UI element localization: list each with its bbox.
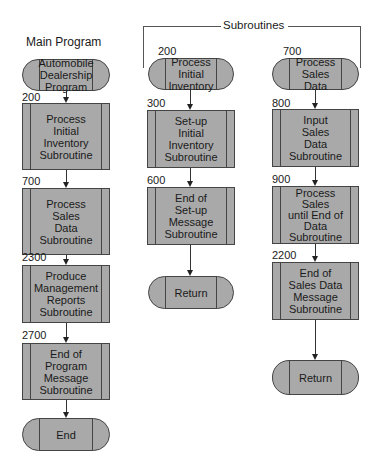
main-step-produce-reports: Produce Management Reports Subroutine: [22, 265, 110, 323]
step-number: 2200: [272, 249, 296, 261]
sub1-return-terminal: Return: [148, 276, 234, 309]
step-number: 700: [22, 175, 40, 187]
main-step-process-initial-inventory: Process Initial Inventory Subroutine: [22, 103, 110, 170]
sub1-step-end-setup-message: End of Set-up Message Subroutine: [147, 187, 235, 245]
step-number: 600: [147, 174, 165, 186]
main-step-process-sales-data: Process Sales Data Subroutine: [22, 188, 110, 255]
sub2-step-input-sales: Input Sales Data Subroutine: [272, 109, 359, 167]
step-number: 300: [147, 97, 165, 109]
sub1-start-terminal: Process Initial Inventory: [148, 58, 234, 90]
main-program-title: Main Program: [26, 35, 101, 49]
main-start-terminal: Automobile Dealership Program: [22, 59, 110, 91]
bracket-line-left: [143, 26, 233, 27]
sub2-start-terminal: Process Sales Data: [272, 58, 359, 90]
sub2-return-terminal: Return: [272, 360, 359, 395]
step-number: 900: [272, 173, 290, 185]
main-step-end-message: End of Program Message Subroutine: [22, 343, 110, 400]
step-number: 2700: [22, 329, 46, 341]
step-number: 800: [272, 97, 290, 109]
main-start-label: Automobile Dealership Program: [38, 57, 93, 93]
subroutines-title: Subroutines: [221, 19, 286, 31]
sub1-step-setup-inventory: Set-up Initial Inventory Subroutine: [147, 110, 235, 168]
sub2-step-process-sales: Process Sales until End of Data Subrouti…: [272, 186, 359, 244]
main-end-terminal: End: [22, 418, 110, 451]
step-number: 2300: [22, 251, 46, 263]
sub2-step-end-sales-message: End of Sales Data Message Subroutine: [272, 262, 359, 320]
bracket-line-right: [288, 26, 360, 27]
